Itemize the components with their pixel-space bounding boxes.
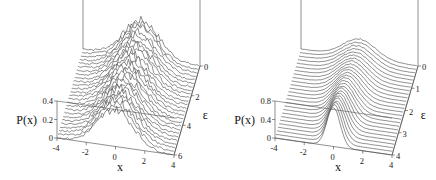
eps-tick-label: 4	[187, 121, 192, 131]
x-tick-label: 4	[171, 160, 176, 170]
eps-tick-label: 6	[178, 151, 182, 161]
eps-tick-label: 2	[195, 92, 199, 102]
y-axis-label: P(x)	[16, 113, 37, 127]
x-axis-label: x	[335, 160, 341, 174]
x-tick-label: 2	[360, 156, 364, 166]
figure: -4-202400.20.40246xP(x)ε -4-202400.40.80…	[0, 0, 436, 180]
eps-tick-label: 3	[403, 129, 407, 139]
eps-tick-label: 2	[409, 107, 413, 117]
eps-tick-label: 0	[422, 62, 426, 72]
eps-tick-label: 4	[396, 151, 401, 161]
y-tick-label: 0.4	[260, 115, 271, 125]
x-tick-label: -2	[82, 147, 89, 157]
y-tick-label: 0.2	[42, 115, 53, 125]
y-tick-label: 0.8	[260, 96, 271, 106]
y-tick-label: 0	[267, 133, 271, 143]
y-tick-label: 0.4	[42, 96, 53, 106]
eps-axis-label: ε	[203, 108, 208, 122]
x-axis-label: x	[117, 160, 123, 174]
waterfall-plot-right: -4-202400.40.801234xP(x)ε	[218, 0, 436, 180]
x-tick-label: -4	[270, 143, 278, 153]
waterfall-plot-left: -4-202400.20.40246xP(x)ε	[0, 0, 218, 180]
y-axis-label: P(x)	[234, 113, 255, 127]
curves	[275, 39, 418, 155]
eps-tick-label: 1	[416, 84, 420, 94]
x-tick-label: 4	[389, 160, 394, 170]
y-tick-label: 0	[49, 133, 53, 143]
curves	[57, 16, 200, 155]
eps-axis-label: ε	[421, 108, 426, 122]
x-tick-label: 2	[142, 156, 146, 166]
x-tick-label: -4	[52, 143, 60, 153]
x-tick-label: -2	[300, 147, 307, 157]
eps-tick-label: 0	[204, 62, 208, 72]
